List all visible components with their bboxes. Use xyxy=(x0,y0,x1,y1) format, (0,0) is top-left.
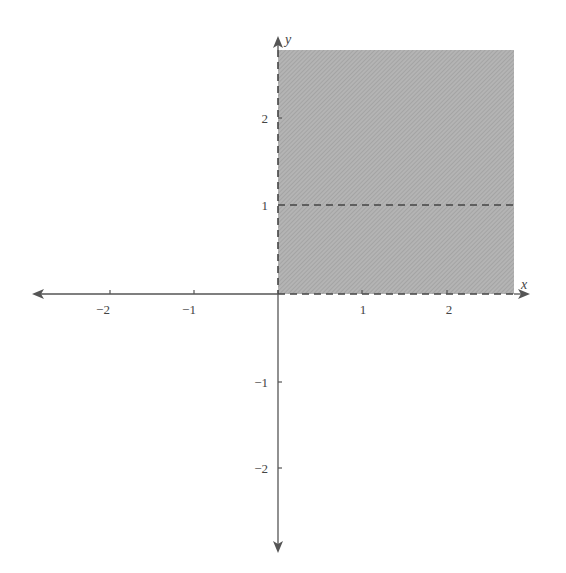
x-tick-label: −1 xyxy=(182,302,196,317)
shaded-region xyxy=(278,50,514,294)
y-tick-label: 2 xyxy=(262,111,269,126)
y-tick-label: 1 xyxy=(262,198,269,213)
y-axis-label: y xyxy=(283,32,292,47)
x-axis-label: x xyxy=(520,277,528,292)
y-tick-label: −2 xyxy=(254,461,268,476)
x-tick-label: 2 xyxy=(446,302,453,317)
x-tick-label: 1 xyxy=(360,302,367,317)
y-tick-label: −1 xyxy=(254,375,268,390)
coordinate-plane: −2 −1 1 2 2 1 −1 −2 x y xyxy=(0,0,566,573)
x-tick-label: −2 xyxy=(96,302,110,317)
